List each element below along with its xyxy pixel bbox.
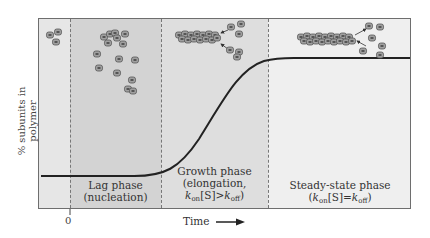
steady-phase-condition: (kon[S]=koff) [268, 191, 411, 207]
x-axis-label: Time [183, 215, 246, 227]
y-axis-label: % subunits in polymer [16, 66, 38, 176]
x-tick-mark [69, 209, 71, 215]
x-tick-zero: 0 [65, 215, 71, 226]
filament-steady [298, 33, 356, 45]
growth-phase-subtitle: (elongation, [161, 177, 268, 189]
arrow-right-icon [216, 218, 246, 226]
lag-phase-subtitle: (nucleation) [70, 191, 161, 203]
filament-growth [176, 31, 221, 43]
growth-phase-title: Growth phase [161, 165, 268, 177]
plot-area: Lag phase (nucleation) Growth phase (elo… [38, 18, 411, 209]
lag-phase-title: Lag phase [70, 179, 161, 191]
lag-phase-label: Lag phase (nucleation) [70, 179, 161, 203]
steady-phase-title: Steady-state phase [268, 179, 411, 191]
growth-phase-condition: kon[S]>koff) [161, 189, 268, 205]
polymerization-curve [41, 58, 411, 176]
steady-state-phase-label: Steady-state phase (kon[S]=koff) [268, 179, 411, 207]
x-axis-label-text: Time [183, 215, 210, 227]
growth-phase-label: Growth phase (elongation, kon[S]>koff) [161, 165, 268, 205]
